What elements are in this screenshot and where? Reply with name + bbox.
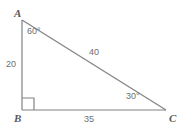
side-length-label-ac: 40 xyxy=(89,48,99,57)
side-ac-hypotenuse-line xyxy=(22,20,166,110)
vertex-label-c: C xyxy=(169,113,176,124)
right-angle-marker-icon xyxy=(22,98,34,110)
side-length-label-ab: 20 xyxy=(6,60,16,69)
angle-label-a: 60° xyxy=(27,27,41,36)
angle-label-c: 30° xyxy=(126,92,140,101)
side-length-label-bc: 35 xyxy=(84,115,94,124)
vertex-label-b: B xyxy=(14,113,21,124)
vertex-label-a: A xyxy=(14,8,21,19)
